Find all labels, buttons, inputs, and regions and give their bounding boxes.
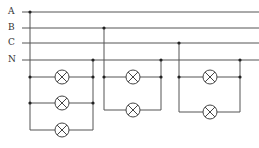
junction-dot [159,58,162,61]
junction-dots [28,10,241,104]
junction-dot [91,75,94,78]
junction-dot [159,75,162,78]
junction-dot [102,75,105,78]
junction-dot [238,58,241,61]
lamp-icon [203,105,217,119]
label-neutral-n: N [8,55,16,64]
label-phase-a: A [8,7,15,16]
three-phase-lamp-circuit [0,0,259,148]
junction-dot [28,10,31,13]
label-phase-c: C [8,38,15,47]
junction-dot [177,75,180,78]
junction-dot [28,101,31,104]
lamp-icon [55,96,69,110]
junction-dot [177,41,180,44]
label-phase-b: B [8,23,15,32]
junction-dot [91,58,94,61]
lamp-icon [126,70,140,84]
junction-dot [238,75,241,78]
junction-dot [28,75,31,78]
junction-dot [91,101,94,104]
lamp-icon [55,70,69,84]
lamp-icon [126,103,140,117]
lamp-icon [55,123,69,137]
junction-dot [102,26,105,29]
lamp-icon [203,70,217,84]
